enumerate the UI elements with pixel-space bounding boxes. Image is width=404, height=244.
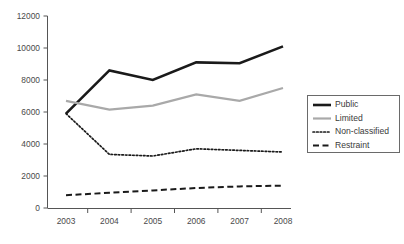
x-axis-ticks: [88, 209, 262, 214]
y-axis-tick-labels: 020004000600080001000012000: [17, 11, 41, 213]
x-axis-tick-labels: 200320042005200620072008: [57, 216, 293, 226]
y-tick-label: 0: [35, 203, 40, 213]
series-line-non-classified: [66, 114, 283, 156]
x-tick-label: 2006: [187, 216, 206, 226]
series-line-limited: [66, 88, 283, 110]
series-line-restraint: [66, 186, 283, 196]
x-axis: 200320042005200620072008: [48, 209, 293, 227]
x-tick-label: 2003: [57, 216, 76, 226]
legend-label-restraint: Restraint: [335, 140, 370, 150]
y-tick-label: 4000: [21, 139, 40, 149]
y-axis: 020004000600080001000012000: [17, 11, 48, 213]
line-chart: 020004000600080001000012000 200320042005…: [0, 0, 404, 244]
y-tick-label: 10000: [17, 43, 41, 53]
y-tick-label: 12000: [17, 11, 41, 21]
x-tick-label: 2008: [274, 216, 293, 226]
series-line-public: [66, 46, 283, 113]
data-series-group: [66, 46, 283, 195]
legend: PublicLimitedNon-classifiedRestraint: [308, 96, 400, 153]
legend-label-limited: Limited: [335, 113, 363, 123]
y-tick-label: 6000: [21, 107, 40, 117]
chart-canvas: 020004000600080001000012000 200320042005…: [0, 0, 404, 244]
y-tick-label: 2000: [21, 171, 40, 181]
y-axis-ticks: [44, 16, 48, 208]
legend-label-non-classified: Non-classified: [335, 126, 389, 136]
x-tick-label: 2007: [230, 216, 249, 226]
y-tick-label: 8000: [21, 75, 40, 85]
x-tick-label: 2005: [143, 216, 162, 226]
legend-label-public: Public: [335, 99, 359, 109]
x-tick-label: 2004: [100, 216, 119, 226]
